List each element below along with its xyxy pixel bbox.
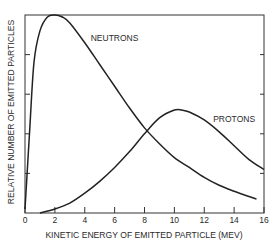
x-axis-label: KINETIC ENERGY OF EMITTED PARTICLE (MEV) bbox=[45, 230, 242, 240]
x-axis: 0246810121416 bbox=[23, 207, 269, 225]
y-axis-label: RELATIVE NUMBER OF EMITTED PARTICLES bbox=[6, 20, 16, 205]
chart: 0246810121416 NEUTRONSPROTONS KINETIC EN… bbox=[0, 0, 277, 246]
series-neutrons-line bbox=[25, 15, 257, 209]
annotation-protons: PROTONS bbox=[213, 114, 255, 124]
x-tick-label: 14 bbox=[229, 215, 239, 225]
x-tick-label: 0 bbox=[23, 215, 28, 225]
series-protons-line bbox=[40, 109, 264, 213]
x-tick-label: 4 bbox=[82, 215, 87, 225]
x-tick-label: 10 bbox=[170, 215, 180, 225]
x-tick-label: 16 bbox=[259, 215, 269, 225]
x-tick-label: 2 bbox=[53, 215, 58, 225]
annotation-neutrons: NEUTRONS bbox=[91, 33, 139, 43]
x-tick-label: 12 bbox=[200, 215, 210, 225]
x-tick-label: 6 bbox=[112, 215, 117, 225]
x-tick-label: 8 bbox=[142, 215, 147, 225]
